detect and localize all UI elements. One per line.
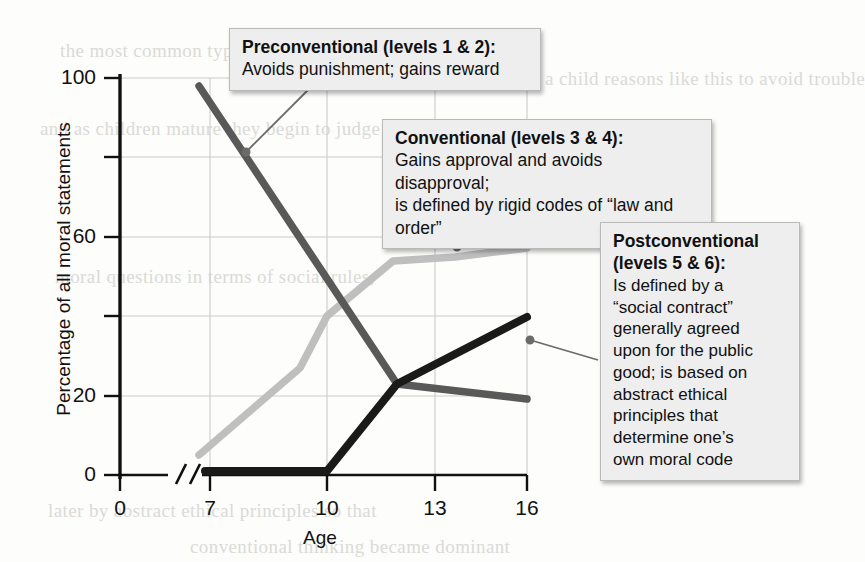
xtick-label-7: 7 [204, 496, 216, 520]
callout-postconventional-heading-2: (levels 5 & 6): [613, 252, 787, 274]
y-axis-title: Percentage of all moral statements [53, 119, 75, 419]
callout-preconventional-heading: Preconventional (levels 1 & 2): [242, 36, 528, 58]
leader-dot-preconventional [242, 148, 249, 155]
ytick-label-100: 100 [48, 65, 96, 89]
xtick-label-16: 16 [515, 496, 538, 520]
xtick-label-0: 0 [114, 496, 126, 520]
callout-postconventional-line-7: principles that [613, 405, 787, 427]
callout-postconventional: Postconventional (levels 5 & 6): Is defi… [600, 222, 800, 481]
callout-postconventional-line-4: upon for the public [613, 340, 787, 362]
axis-break-icon [168, 464, 202, 484]
ytick-label-0: 0 [48, 462, 96, 486]
callout-postconventional-line-2: “social contract” [613, 297, 787, 319]
callout-preconventional-line-1: Avoids punishment; gains reward [242, 58, 528, 80]
callout-postconventional-line-6: abstract ethical [613, 384, 787, 406]
callout-postconventional-line-3: generally agreed [613, 318, 787, 340]
callout-preconventional: Preconventional (levels 1 & 2): Avoids p… [229, 28, 541, 91]
callout-postconventional-line-5: good; is based on [613, 362, 787, 384]
callout-postconventional-line-9: own moral code [613, 449, 787, 471]
xtick-label-10: 10 [315, 496, 338, 520]
callout-postconventional-line-1: Is defined by a [613, 275, 787, 297]
xtick-label-13: 13 [423, 496, 446, 520]
leader-line-postconventional [530, 340, 598, 360]
callout-conventional-line-1: Gains approval and avoids disapproval; [395, 149, 699, 194]
leader-line-preconventional [246, 86, 312, 152]
x-axis-title: Age [303, 527, 337, 549]
callout-postconventional-line-8: determine one’s [613, 427, 787, 449]
callout-conventional-heading: Conventional (levels 3 & 4): [395, 127, 699, 149]
leader-dot-postconventional [526, 336, 533, 343]
callout-postconventional-heading-1: Postconventional [613, 230, 787, 252]
